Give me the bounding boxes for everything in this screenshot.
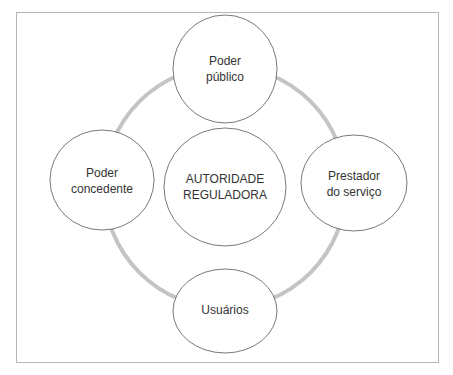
center-node-line1: AUTORIDADE (183, 171, 267, 187)
node-top-line1: Poder (206, 53, 244, 69)
center-node-line2: REGULADORA (183, 187, 267, 203)
node-right: Prestador do serviço (301, 160, 407, 208)
node-left-line2: concedente (71, 181, 133, 197)
node-bottom-label: Usuários (201, 302, 248, 318)
node-left-line1: Poder (71, 165, 133, 181)
node-right-line2: do serviço (327, 184, 382, 200)
node-left: Poder concedente (50, 157, 154, 205)
center-node: AUTORIDADE REGULADORA (164, 163, 286, 211)
node-right-line1: Prestador (327, 168, 382, 184)
node-bottom: Usuários (173, 298, 277, 322)
node-top: Poder público (173, 45, 277, 93)
node-top-line2: público (206, 69, 244, 85)
